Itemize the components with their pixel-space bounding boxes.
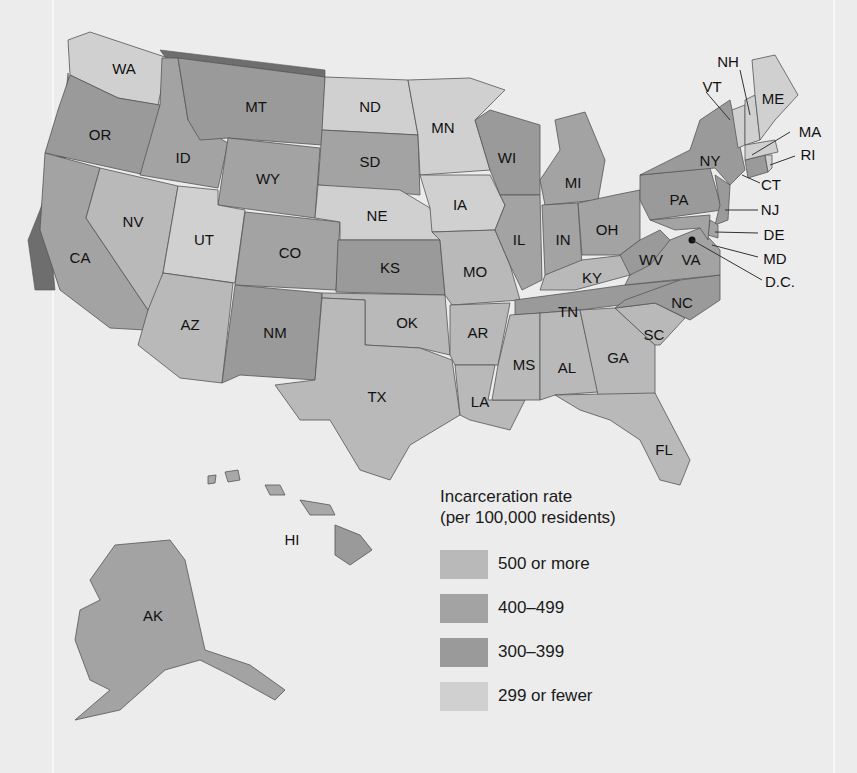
label-NV: NV: [123, 213, 144, 230]
label-HI: HI: [285, 531, 300, 548]
us-map: WA OR CA ID NV MT WY UT AZ CO NM ND SD N…: [0, 0, 857, 773]
state-AK[interactable]: [75, 540, 285, 720]
label-MN: MN: [431, 119, 454, 136]
label-OH: OH: [596, 221, 619, 238]
state-FL[interactable]: [555, 393, 690, 485]
label-DC: D.C.: [765, 273, 795, 290]
label-CT: CT: [761, 176, 781, 193]
label-IA: IA: [453, 196, 467, 213]
label-NH: NH: [717, 53, 739, 70]
label-NC: NC: [671, 294, 693, 311]
label-NE: NE: [367, 207, 388, 224]
label-DE: DE: [764, 226, 785, 243]
legend-swatch: [440, 638, 488, 667]
label-VT: VT: [702, 78, 721, 95]
label-AZ: AZ: [180, 316, 199, 333]
hi-island-maui: [300, 500, 335, 515]
label-AK: AK: [143, 607, 163, 624]
label-OK: OK: [396, 314, 418, 331]
label-MA: MA: [799, 123, 822, 140]
label-WA: WA: [112, 60, 136, 77]
label-FL: FL: [655, 441, 673, 458]
label-RI: RI: [801, 146, 816, 163]
hawaii-islands: [208, 470, 372, 565]
label-VA: VA: [682, 251, 701, 268]
legend-item-400-499: 400–499: [440, 586, 700, 630]
legend-label: 400–499: [498, 598, 564, 618]
legend-item-300-399: 300–399: [440, 630, 700, 674]
legend-swatch: [440, 550, 488, 579]
label-IL: IL: [513, 231, 526, 248]
label-PA: PA: [670, 191, 689, 208]
label-ID: ID: [176, 149, 191, 166]
label-MT: MT: [245, 98, 267, 115]
label-CO: CO: [279, 244, 302, 261]
state-HI[interactable]: [335, 525, 372, 565]
state-MI[interactable]: [540, 112, 605, 205]
label-MO: MO: [463, 263, 487, 280]
label-NM: NM: [263, 324, 286, 341]
label-CA: CA: [70, 249, 91, 266]
label-LA: LA: [471, 393, 489, 410]
legend-label: 300–399: [498, 642, 564, 662]
label-MI: MI: [565, 174, 582, 191]
legend-item-500-plus: 500 or more: [440, 542, 700, 586]
label-KY: KY: [582, 269, 602, 286]
label-NY: NY: [700, 152, 721, 169]
label-IN: IN: [556, 231, 571, 248]
label-TN: TN: [558, 303, 578, 320]
label-ME: ME: [762, 90, 785, 107]
legend-title-line1: Incarceration rate: [440, 486, 700, 507]
label-SC: SC: [644, 326, 665, 343]
label-MD: MD: [763, 250, 786, 267]
label-OR: OR: [89, 126, 112, 143]
label-ND: ND: [359, 98, 381, 115]
label-KS: KS: [380, 259, 400, 276]
label-GA: GA: [607, 349, 629, 366]
label-NJ: NJ: [761, 201, 779, 218]
legend-title-line2: (per 100,000 residents): [440, 507, 700, 528]
label-WI: WI: [498, 149, 516, 166]
label-AL: AL: [558, 359, 576, 376]
legend: Incarceration rate (per 100,000 resident…: [440, 486, 700, 718]
legend-label: 500 or more: [498, 554, 590, 574]
legend-item-299-or-fewer: 299 or fewer: [440, 674, 700, 718]
label-WY: WY: [256, 170, 280, 187]
label-WV: WV: [639, 251, 663, 268]
hi-island-oahu: [265, 485, 285, 495]
legend-swatch: [440, 594, 488, 623]
legend-swatch: [440, 682, 488, 711]
label-SD: SD: [360, 153, 381, 170]
hi-island-niihau: [208, 475, 216, 484]
label-MS: MS: [513, 356, 536, 373]
label-AR: AR: [468, 324, 489, 341]
label-UT: UT: [194, 231, 214, 248]
label-TX: TX: [367, 388, 386, 405]
legend-label: 299 or fewer: [498, 686, 593, 706]
hi-island-kauai: [225, 470, 240, 482]
